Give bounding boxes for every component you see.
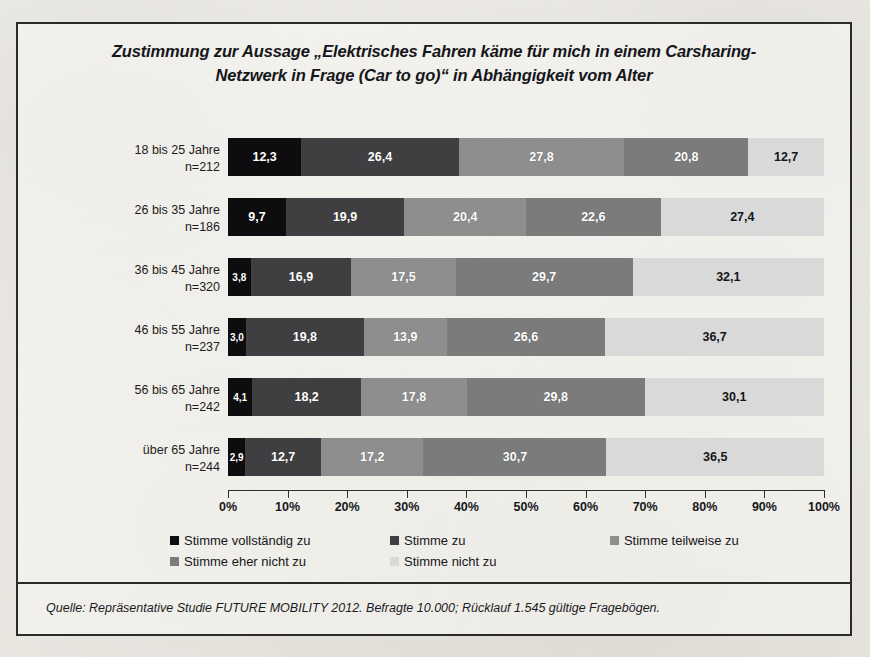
bar-segment: 27,8 (459, 138, 625, 176)
x-axis-tick (705, 490, 706, 498)
category-sample-size: n=244 (70, 459, 220, 476)
bar-segment-value: 27,8 (529, 150, 553, 164)
stacked-bar: 3,816,917,529,732,1 (228, 258, 824, 296)
bar-segment: 30,1 (645, 378, 824, 416)
stacked-bar: 9,719,920,422,627,4 (228, 198, 824, 236)
bar-segment-value: 36,5 (703, 450, 727, 464)
legend-label: Stimme eher nicht zu (184, 554, 306, 569)
x-axis-tick-label: 50% (513, 500, 538, 514)
bar-row-label: über 65 Jahren=244 (70, 442, 220, 476)
bar-segment-value: 29,8 (544, 390, 568, 404)
bar-segment: 27,4 (661, 198, 824, 236)
x-axis-tick (347, 490, 348, 498)
bar-segment-value: 36,7 (702, 330, 726, 344)
bar-segment-value: 12,3 (252, 150, 276, 164)
bar-segment-value: 19,8 (293, 330, 317, 344)
legend-swatch-icon (610, 536, 619, 545)
bar-segment-value: 3,0 (230, 332, 244, 343)
bar-segment: 20,8 (624, 138, 748, 176)
category-sample-size: n=320 (70, 279, 220, 296)
bar-segment-value: 20,8 (674, 150, 698, 164)
bar-segment-value: 30,1 (722, 390, 746, 404)
legend-item[interactable]: Stimme zu (390, 530, 610, 551)
x-axis-tick-label: 30% (394, 500, 419, 514)
legend-swatch-icon (170, 557, 179, 566)
bar-segment-value: 29,7 (532, 270, 556, 284)
x-axis-tick (586, 490, 587, 498)
x-axis-tick-label: 60% (573, 500, 598, 514)
bar-row: 56 bis 65 Jahren=2424,118,217,829,830,1 (16, 370, 852, 430)
bar-segment-value: 26,4 (368, 150, 392, 164)
x-axis-tick-labels: 0%10%20%30%40%50%60%70%80%90%100% (228, 500, 824, 520)
stacked-bar: 4,118,217,829,830,1 (228, 378, 824, 416)
bar-segment: 4,1 (228, 378, 252, 416)
category-name: 18 bis 25 Jahre (135, 143, 220, 157)
legend-swatch-icon (390, 536, 399, 545)
bar-segment-value: 26,6 (514, 330, 538, 344)
x-axis-tick-label: 10% (275, 500, 300, 514)
bar-segment: 12,7 (245, 438, 321, 476)
stacked-bar: 2,912,717,230,736,5 (228, 438, 824, 476)
x-axis-tick-label: 90% (752, 500, 777, 514)
bar-segment-value: 3,8 (232, 272, 246, 283)
x-axis-tick (466, 490, 467, 498)
chart-legend: Stimme vollständig zuStimme zuStimme tei… (170, 530, 830, 572)
bar-segment-value: 16,9 (289, 270, 313, 284)
bar-segment: 17,8 (361, 378, 467, 416)
bar-segment-value: 30,7 (503, 450, 527, 464)
bar-row-label: 56 bis 65 Jahren=242 (70, 382, 220, 416)
bar-row-label: 26 bis 35 Jahren=186 (70, 202, 220, 236)
bar-segment-value: 27,4 (730, 210, 754, 224)
bar-segment-value: 12,7 (774, 150, 798, 164)
legend-item[interactable]: Stimme eher nicht zu (170, 551, 390, 572)
bar-row: 36 bis 45 Jahren=3203,816,917,529,732,1 (16, 250, 852, 310)
bar-row: über 65 Jahren=2442,912,717,230,736,5 (16, 430, 852, 490)
bar-segment: 26,6 (447, 318, 606, 356)
x-axis-tick-label: 80% (692, 500, 717, 514)
category-name: 26 bis 35 Jahre (135, 203, 220, 217)
x-axis-tick (526, 490, 527, 498)
bar-segment-value: 17,8 (402, 390, 426, 404)
bar-segment-value: 4,1 (233, 392, 247, 403)
bar-segment: 29,7 (456, 258, 633, 296)
x-axis-tick-label: 20% (335, 500, 360, 514)
source-divider (16, 582, 852, 584)
bar-segment-value: 17,2 (360, 450, 384, 464)
bar-segment: 19,9 (286, 198, 405, 236)
bar-segment-value: 20,4 (453, 210, 477, 224)
legend-item[interactable]: Stimme vollständig zu (170, 530, 390, 551)
bar-row-label: 46 bis 55 Jahren=237 (70, 322, 220, 356)
bar-segment-value: 12,7 (271, 450, 295, 464)
category-name: 56 bis 65 Jahre (135, 383, 220, 397)
x-axis-tick (288, 490, 289, 498)
x-axis-tick (228, 490, 229, 498)
bar-segment-value: 22,6 (581, 210, 605, 224)
bar-segment: 13,9 (364, 318, 447, 356)
bar-segment-value: 13,9 (393, 330, 417, 344)
legend-item[interactable]: Stimme teilweise zu (610, 530, 830, 551)
bar-segment-value: 2,9 (230, 452, 244, 463)
bar-segment: 9,7 (228, 198, 286, 236)
legend-label: Stimme teilweise zu (624, 533, 739, 548)
x-axis-tick (407, 490, 408, 498)
category-sample-size: n=237 (70, 339, 220, 356)
bar-segment: 17,2 (321, 438, 424, 476)
bar-segment: 22,6 (526, 198, 661, 236)
category-name: 46 bis 55 Jahre (135, 323, 220, 337)
bar-segment-value: 32,1 (716, 270, 740, 284)
category-name: über 65 Jahre (143, 443, 220, 457)
legend-item[interactable]: Stimme nicht zu (390, 551, 610, 572)
bar-segment: 2,9 (228, 438, 245, 476)
bar-segment: 3,0 (228, 318, 246, 356)
x-axis-tick-label: 70% (633, 500, 658, 514)
bar-segment: 20,4 (404, 198, 526, 236)
bar-segment: 16,9 (251, 258, 352, 296)
bar-segment-value: 9,7 (248, 210, 265, 224)
bar-segment: 30,7 (423, 438, 606, 476)
bar-row: 26 bis 35 Jahren=1869,719,920,422,627,4 (16, 190, 852, 250)
legend-label: Stimme zu (404, 533, 465, 548)
stacked-bar: 3,019,813,926,636,7 (228, 318, 824, 356)
x-axis-tick (824, 490, 825, 498)
x-axis-tick-label: 100% (808, 500, 840, 514)
bar-row-label: 36 bis 45 Jahren=320 (70, 262, 220, 296)
